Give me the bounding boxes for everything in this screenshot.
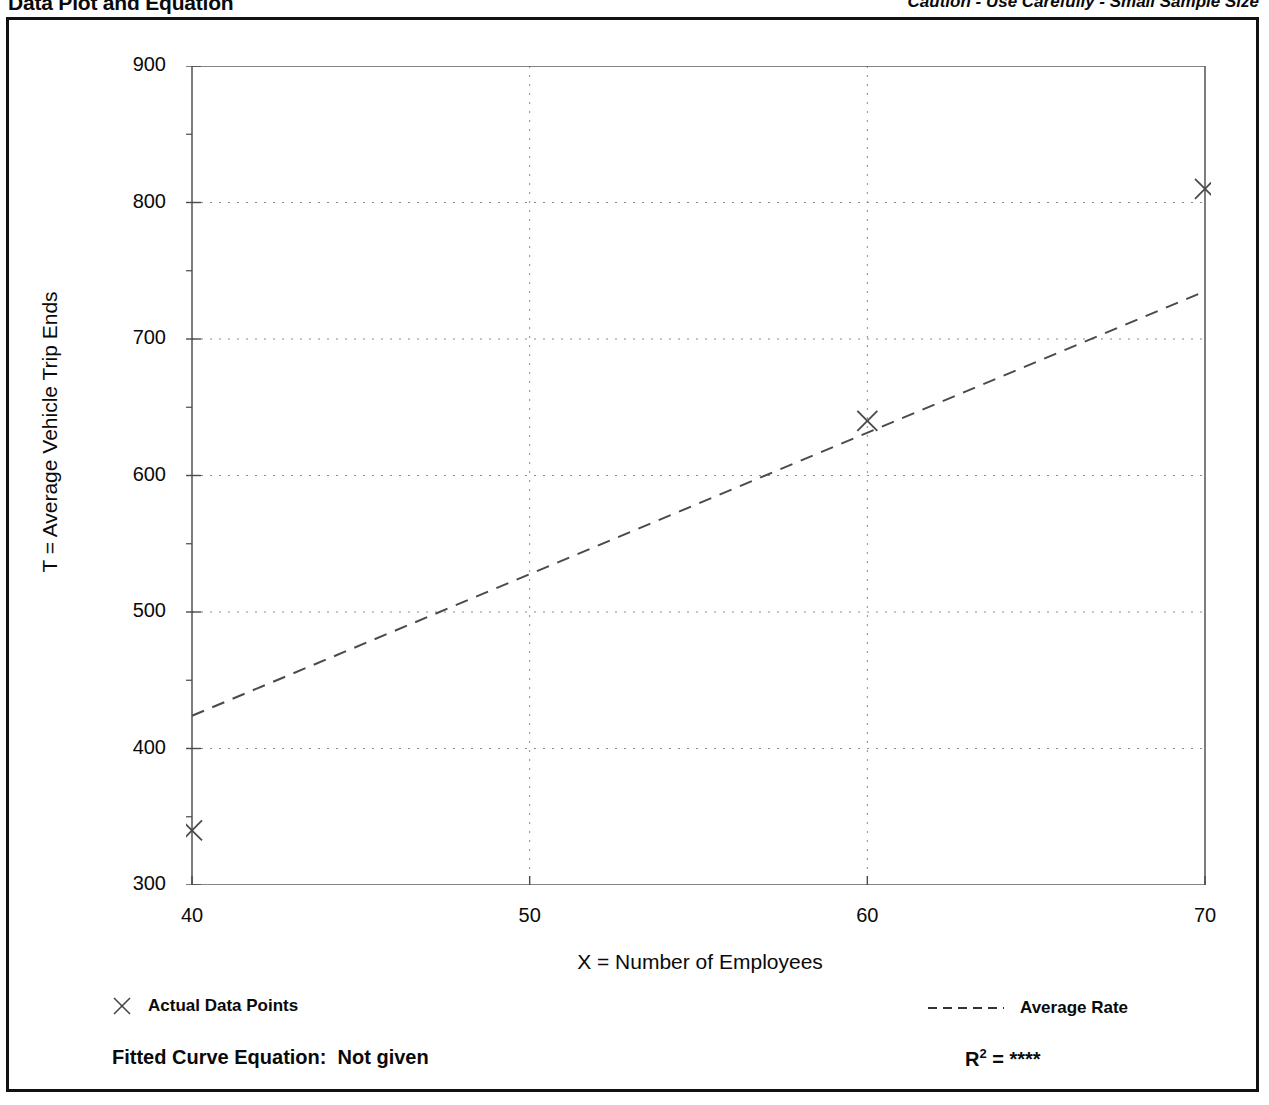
y-tick-label: 800: [96, 190, 166, 213]
y-tick-label: 400: [96, 736, 166, 759]
cross-marker-icon: [110, 994, 134, 1018]
plot-area: [186, 66, 1211, 885]
fitted-curve-equation: Fitted Curve Equation: Not given: [112, 1046, 429, 1069]
dashed-line-icon: [928, 1002, 1004, 1014]
plot-svg: [186, 66, 1211, 885]
data-point-marker: [1195, 179, 1211, 199]
page-title: Data Plot and Equation: [8, 0, 233, 15]
equation-value: Not given: [338, 1046, 429, 1068]
caution-note: Caution - Use Carefully - Small Sample S…: [908, 0, 1259, 12]
r-squared-value: R2 = ****: [965, 1046, 1041, 1071]
y-tick-label: 700: [96, 326, 166, 349]
x-tick-label: 70: [1170, 904, 1240, 927]
legend-label-average-rate: Average Rate: [1020, 998, 1128, 1018]
y-tick-label: 900: [96, 53, 166, 76]
y-axis-title: T = Average Vehicle Trip Ends: [38, 152, 62, 712]
y-tick-label: 600: [96, 463, 166, 486]
x-tick-label: 50: [495, 904, 565, 927]
x-tick-label: 40: [157, 904, 227, 927]
legend-label-actual-data-points: Actual Data Points: [148, 996, 298, 1016]
r2-exponent: 2: [979, 1046, 986, 1061]
x-tick-label: 60: [832, 904, 902, 927]
page-header: Data Plot and Equation Caution - Use Car…: [0, 0, 1269, 17]
y-tick-label: 500: [96, 599, 166, 622]
r2-stars: ****: [1010, 1048, 1041, 1070]
data-point-marker: [186, 820, 202, 840]
trend-line-average-rate: [192, 291, 1205, 716]
equation-label: Fitted Curve Equation:: [112, 1046, 326, 1068]
legend-item-actual-data-points: Actual Data Points: [110, 994, 298, 1018]
y-tick-label: 300: [96, 872, 166, 895]
r2-label: R: [965, 1048, 979, 1070]
x-axis-title: X = Number of Employees: [180, 950, 1220, 974]
legend-item-average-rate: Average Rate: [928, 998, 1128, 1018]
r2-equals: =: [992, 1048, 1004, 1070]
